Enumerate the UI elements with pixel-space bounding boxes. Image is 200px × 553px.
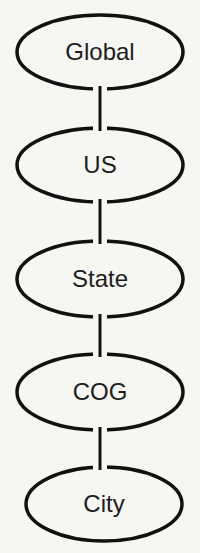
node-cog-label: COG [20, 378, 180, 406]
hierarchy-diagram: GlobalUSStateCOGCity [0, 0, 200, 553]
node-global-label: Global [20, 38, 180, 66]
node-us-label: US [20, 151, 180, 179]
node-state-label: State [20, 265, 180, 293]
node-city-label: City [24, 490, 184, 518]
